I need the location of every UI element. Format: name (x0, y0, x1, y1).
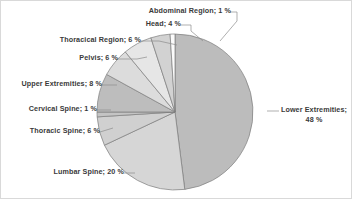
slice-label-thoracical-region: Thoracical Region; 6 % (21, 35, 141, 45)
slice-label-abdominal-region: Abdominal Region; 1 % (99, 6, 231, 16)
pie-chart-figure: Abdominal Region; 1 % Head; 4 % Thoracic… (0, 0, 352, 199)
slice-label-thoracic-spine: Thoracic Spine; 6 % (17, 126, 100, 136)
slice-label-lower-extremities-name: Lower Extremities; (281, 105, 347, 114)
slice-label-lower-extremities: Lower Extremities; 48 % (280, 105, 348, 125)
leader-line-abdominal-region (220, 12, 237, 41)
slice-label-lower-extremities-value: 48 % (306, 115, 323, 124)
slice-label-cervical-spine: Cervical Spine; 1 % (15, 104, 97, 114)
pie-slice-lower-extremities[interactable] (175, 34, 253, 189)
slice-label-pelvis: Pelvis; 6 % (41, 53, 118, 63)
slice-label-lumbar-spine: Lumbar Spine; 20 % (37, 167, 124, 177)
slice-label-head: Head; 4 % (99, 19, 181, 29)
slice-label-upper-extremities: Upper Extremities; 8 % (7, 79, 102, 89)
